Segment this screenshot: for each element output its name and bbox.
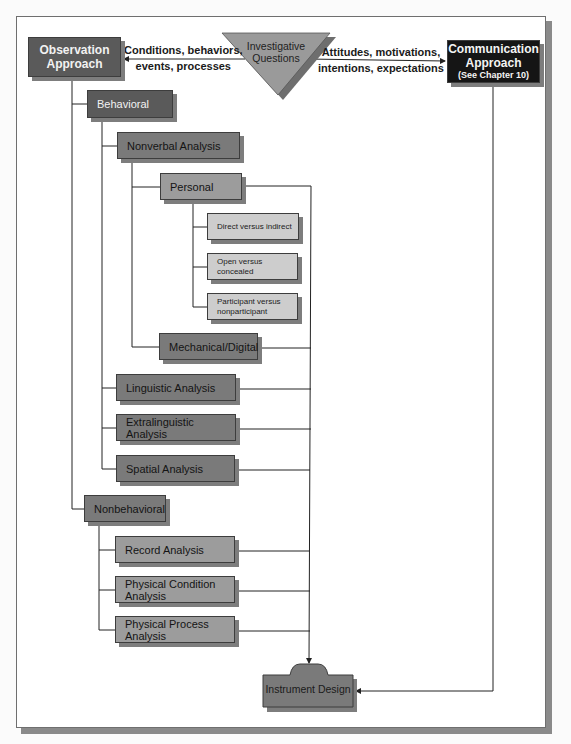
linguistic-label: Linguistic Analysis — [126, 382, 215, 394]
right-edge-line1: Attitudes, motivations, — [322, 46, 441, 58]
nonverbal-label: Nonverbal Analysis — [127, 140, 221, 152]
communication-chapter-ref: (See Chapter 10) — [458, 70, 529, 81]
physical-process-line1: Physical Process — [125, 618, 209, 630]
communication-approach-box: Communication Approach (See Chapter 10) — [447, 40, 540, 83]
triangle-line2: Questions — [252, 52, 299, 64]
record-analysis-box: Record Analysis — [115, 536, 235, 563]
instrument-design-label: Instrument Design — [263, 682, 353, 696]
direct-indirect-label: Direct versus indirect — [217, 222, 292, 232]
physical-condition-line2: Analysis — [125, 590, 166, 602]
participant-box: Participant versus nonparticipant — [207, 293, 298, 320]
behavioral-box: Behavioral — [87, 90, 173, 118]
physical-condition-box: Physical Condition Analysis — [115, 576, 235, 603]
extralinguistic-analysis-box: Extralinguistic Analysis — [116, 414, 236, 441]
open-concealed-box: Open versus concealed — [207, 253, 298, 280]
connector-lines — [0, 0, 571, 744]
physical-process-line2: Analysis — [125, 630, 166, 642]
right-edge-label: Attitudes, motivations, intentions, expe… — [318, 44, 444, 76]
observation-line1: Observation — [39, 43, 109, 57]
personal-label: Personal — [170, 181, 213, 193]
triangle-line1: Investigative — [247, 40, 305, 52]
spatial-analysis-box: Spatial Analysis — [116, 455, 235, 482]
direct-indirect-box: Direct versus indirect — [207, 213, 299, 240]
behavioral-label: Behavioral — [97, 98, 149, 110]
investigative-questions-label: Investigative Questions — [236, 40, 316, 64]
mechanical-label: Mechanical/Digital — [169, 341, 258, 353]
spatial-label: Spatial Analysis — [126, 463, 203, 475]
left-edge-line2: events, processes — [136, 60, 231, 72]
left-edge-label: Conditions, behaviors, events, processes — [124, 42, 243, 74]
nonbehavioral-box: Nonbehavioral — [84, 495, 166, 522]
communication-line1: Communication — [448, 42, 539, 56]
participant-line1: Participant versus — [217, 297, 281, 307]
nonverbal-analysis-box: Nonverbal Analysis — [117, 132, 240, 159]
mechanical-digital-box: Mechanical/Digital — [159, 333, 258, 360]
physical-condition-line1: Physical Condition — [125, 578, 216, 590]
participant-line2: nonparticipant — [217, 307, 267, 317]
communication-line2: Approach — [465, 56, 521, 70]
open-concealed-label: Open versus concealed — [217, 257, 297, 277]
record-label: Record Analysis — [125, 544, 204, 556]
extralinguistic-label: Extralinguistic Analysis — [126, 416, 235, 440]
right-edge-line2: intentions, expectations — [318, 62, 444, 74]
left-edge-line1: Conditions, behaviors, — [124, 44, 243, 56]
linguistic-analysis-box: Linguistic Analysis — [116, 374, 236, 401]
observation-line2: Approach — [46, 57, 102, 71]
nonbehavioral-label: Nonbehavioral — [94, 503, 165, 515]
personal-box: Personal — [160, 173, 242, 200]
physical-process-box: Physical Process Analysis — [115, 616, 235, 643]
observation-approach-box: Observation Approach — [28, 37, 121, 77]
